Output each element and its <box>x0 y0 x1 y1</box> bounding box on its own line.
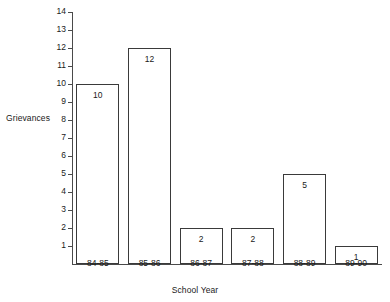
y-axis-tick-mark <box>68 120 72 121</box>
bar: 5 <box>283 174 326 264</box>
y-axis-tick-mark <box>68 246 72 247</box>
y-axis-tick-label: 13 <box>44 24 66 35</box>
y-axis-tick-mark <box>68 84 72 85</box>
y-axis-tick-mark <box>68 66 72 67</box>
bar-value-label: 12 <box>129 54 170 64</box>
y-axis-tick-mark <box>68 12 72 13</box>
x-axis-title: School Year <box>0 285 390 295</box>
bar-value-label: 10 <box>77 90 118 100</box>
y-axis-tick-mark <box>68 156 72 157</box>
y-axis-tick-label: 1 <box>44 240 66 251</box>
y-axis-tick-mark <box>68 102 72 103</box>
y-axis-tick-mark <box>68 48 72 49</box>
bar: 10 <box>76 84 119 264</box>
y-axis-tick-label: 11 <box>44 60 66 71</box>
y-axis-tick-mark <box>68 228 72 229</box>
y-axis-tick-label: 4 <box>44 186 66 197</box>
bar: 12 <box>128 48 171 264</box>
y-axis-tick-mark <box>68 30 72 31</box>
y-axis-tick-mark <box>68 210 72 211</box>
y-axis-tick-mark <box>68 192 72 193</box>
y-axis-line <box>72 12 73 265</box>
bar-value-label: 2 <box>181 234 222 244</box>
y-axis-tick-label: 9 <box>44 96 66 107</box>
y-axis-tick-label: 12 <box>44 42 66 53</box>
y-axis-tick-mark <box>68 174 72 175</box>
y-axis-tick-label: 7 <box>44 132 66 143</box>
bar-value-label: 2 <box>232 234 273 244</box>
bar-value-label: 5 <box>284 180 325 190</box>
bar-chart: Grievances 1234567891011121314 10122251 … <box>0 0 390 302</box>
y-axis-tick-label: 8 <box>44 114 66 125</box>
y-axis-tick-label: 14 <box>44 6 66 17</box>
y-axis-tick-mark <box>68 138 72 139</box>
plot-area: 1234567891011121314 10122251 <box>72 12 382 265</box>
y-axis-tick-label: 2 <box>44 222 66 233</box>
y-axis-tick-label: 5 <box>44 168 66 179</box>
x-axis-tick-label: 89-90 <box>326 258 386 269</box>
y-axis-tick-label: 6 <box>44 150 66 161</box>
y-axis-tick-label: 10 <box>44 78 66 89</box>
y-axis-tick-label: 3 <box>44 204 66 215</box>
